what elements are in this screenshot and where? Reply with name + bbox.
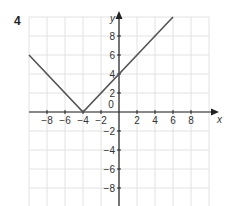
x-tick-label: −2	[95, 115, 107, 126]
x-tick-label: 8	[188, 115, 194, 126]
y-tick-label: −4	[104, 145, 116, 156]
y-axis-label: y	[109, 13, 116, 24]
y-tick-label: −2	[104, 126, 116, 137]
y-tick-label: −6	[104, 164, 116, 175]
y-axis-arrow-icon	[116, 11, 123, 19]
y-tick-label: −8	[104, 183, 116, 194]
y-tick-label: 8	[109, 31, 115, 42]
x-tick-label: 0	[108, 99, 114, 110]
x-tick-label: −4	[77, 115, 89, 126]
tick-labels: −8−6−4−2024688642−2−4−6−8xy	[41, 13, 223, 194]
graph: −8−6−4−2024688642−2−4−6−8xy	[0, 0, 226, 206]
x-tick-label: 2	[134, 115, 140, 126]
x-tick-label: −8	[41, 115, 53, 126]
x-tick-label: 6	[170, 115, 176, 126]
x-tick-label: −6	[59, 115, 71, 126]
x-axis-label: x	[216, 114, 223, 125]
y-tick-label: 2	[109, 88, 115, 99]
x-tick-label: 4	[152, 115, 158, 126]
y-tick-label: 6	[109, 50, 115, 61]
